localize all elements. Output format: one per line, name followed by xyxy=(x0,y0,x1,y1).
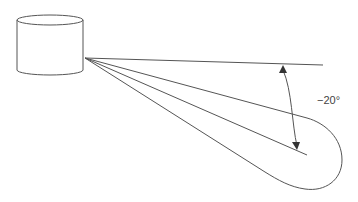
angle-arc xyxy=(283,70,297,146)
cylinder-body xyxy=(17,20,83,75)
beam-outline xyxy=(85,58,342,189)
cylinder-sensor xyxy=(17,15,83,75)
beam-angle-diagram: −20° xyxy=(0,0,358,202)
reference-line-angle xyxy=(85,58,307,155)
cylinder-top xyxy=(17,15,83,25)
reference-line-top xyxy=(85,58,323,65)
angle-dimension: −20° xyxy=(279,65,340,150)
arrowhead-top-icon xyxy=(279,65,287,73)
angle-label: −20° xyxy=(317,94,340,106)
